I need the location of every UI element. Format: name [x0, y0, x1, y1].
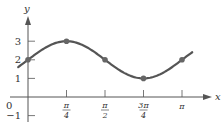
- data-point: [64, 38, 70, 44]
- function-plot: x y 0 π4π23π4π 321−1: [0, 0, 223, 132]
- x-axis-arrow-icon: [203, 94, 212, 100]
- data-point: [179, 57, 185, 63]
- x-axis-label: x: [215, 91, 221, 102]
- y-axis-label: y: [23, 3, 30, 14]
- x-ticks: π4π23π4π: [63, 90, 186, 120]
- y-axis-arrow-icon: [25, 16, 31, 25]
- y-tick-label: −1: [6, 110, 21, 121]
- y-tick-label: 3: [15, 36, 21, 47]
- x-tick-numerator: π: [101, 101, 108, 110]
- x-axis: x: [10, 91, 221, 102]
- x-tick-numerator: π: [63, 101, 70, 110]
- y-tick-label: 1: [15, 73, 21, 84]
- data-point: [25, 57, 31, 63]
- x-tick-denominator: 4: [63, 111, 69, 120]
- y-tick-label: 2: [15, 54, 21, 65]
- data-point: [141, 76, 147, 82]
- x-tick-label: π: [178, 102, 185, 111]
- x-tick-denominator: 2: [101, 111, 107, 120]
- data-point: [102, 57, 108, 63]
- x-tick-numerator: 3π: [138, 101, 149, 110]
- x-tick-denominator: 4: [140, 111, 146, 120]
